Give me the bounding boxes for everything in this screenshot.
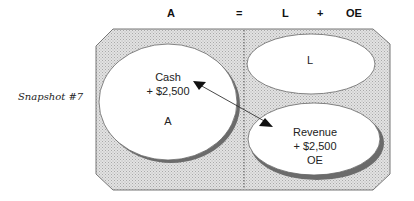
- revenue-label: Revenue: [280, 125, 350, 139]
- oe-header: OE: [346, 7, 362, 19]
- oe-circle-label: OE: [280, 153, 350, 167]
- snapshot-label: Snapshot #7: [18, 91, 83, 102]
- assets-circle: [99, 44, 237, 160]
- assets-header: A: [167, 7, 175, 19]
- liabilities-header: L: [282, 7, 289, 19]
- liabilities-label: L: [290, 53, 330, 67]
- cash-amount: + $2,500: [140, 84, 196, 98]
- cash-label: Cash: [140, 70, 196, 84]
- revenue-amount: + $2,500: [280, 139, 350, 153]
- plus-sign: +: [317, 7, 323, 19]
- assets-circle-label: A: [140, 114, 196, 128]
- equals-sign: =: [236, 7, 242, 19]
